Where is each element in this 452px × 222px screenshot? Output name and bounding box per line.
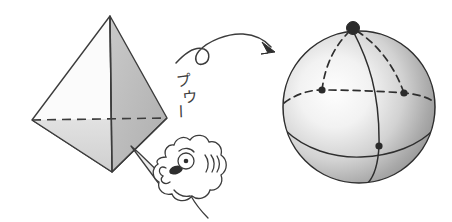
cartoon-face-blowing <box>153 135 226 218</box>
arrow-curve <box>176 34 271 64</box>
tetrahedron <box>32 16 167 172</box>
neck-line <box>191 196 208 218</box>
sound-effect-char-3: ー <box>172 104 188 120</box>
illustration-svg <box>0 0 452 222</box>
illustration-canvas: プ ウ ー <box>0 0 452 222</box>
sphere-body <box>283 31 435 183</box>
tetrahedron-face-right <box>110 16 167 172</box>
sphere-vertex-dot-right <box>400 89 407 96</box>
sphere-vertex-dot-top <box>347 22 360 35</box>
looping-transform-arrow <box>176 34 275 64</box>
sphere-vertex-dot-front-low <box>375 142 382 149</box>
sphere-vertex-dot-left <box>318 86 325 93</box>
pupil <box>184 159 189 164</box>
sphere <box>283 22 437 185</box>
